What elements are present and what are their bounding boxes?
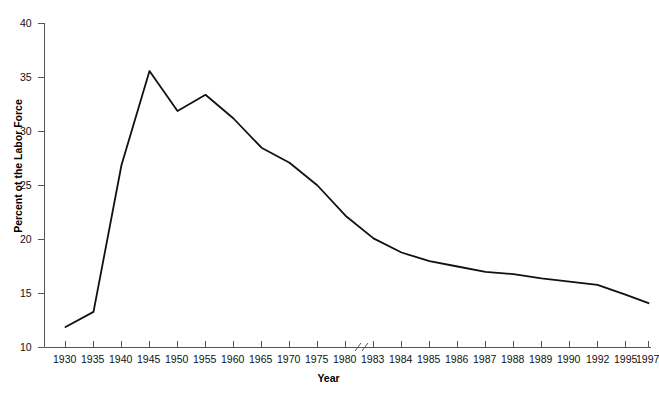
x-tick-label: 1987	[473, 353, 496, 365]
x-tick-label: 1935	[81, 353, 104, 365]
x-tick-label: 1940	[109, 353, 132, 365]
x-tick-label: 1990	[557, 353, 580, 365]
x-tick-label: 1930	[53, 353, 76, 365]
x-tick-label: 1945	[137, 353, 160, 365]
x-tick-label: 1980	[333, 353, 356, 365]
y-tick-label: 10	[20, 341, 32, 353]
y-axis-title: Percent ot the Labor Force	[12, 86, 24, 246]
x-tick-label: 1955	[193, 353, 216, 365]
x-tick-label: 1995	[614, 353, 637, 365]
y-axis-ticks	[38, 24, 45, 348]
x-tick-label: 1997	[636, 353, 659, 365]
chart-axes	[45, 23, 652, 348]
x-tick-label: 1983	[361, 353, 384, 365]
x-tick-label: 1986	[445, 353, 468, 365]
x-axis-ticks	[66, 341, 649, 348]
x-tick-label: 1989	[529, 353, 552, 365]
x-tick-label: 1965	[249, 353, 272, 365]
x-tick-label: 1960	[221, 353, 244, 365]
x-tick-label: 1992	[586, 353, 609, 365]
y-tick-label: 35	[20, 71, 32, 83]
x-tick-label: 1984	[389, 353, 412, 365]
data-series-line	[66, 71, 649, 327]
x-tick-label: 1970	[277, 353, 300, 365]
x-tick-label: 1988	[501, 353, 524, 365]
y-tick-label: 40	[20, 17, 32, 29]
x-tick-label: 1950	[165, 353, 188, 365]
x-tick-label: 1975	[305, 353, 328, 365]
x-axis-title: Year	[0, 372, 657, 384]
y-tick-label: 15	[20, 287, 32, 299]
x-tick-label: 1985	[417, 353, 440, 365]
